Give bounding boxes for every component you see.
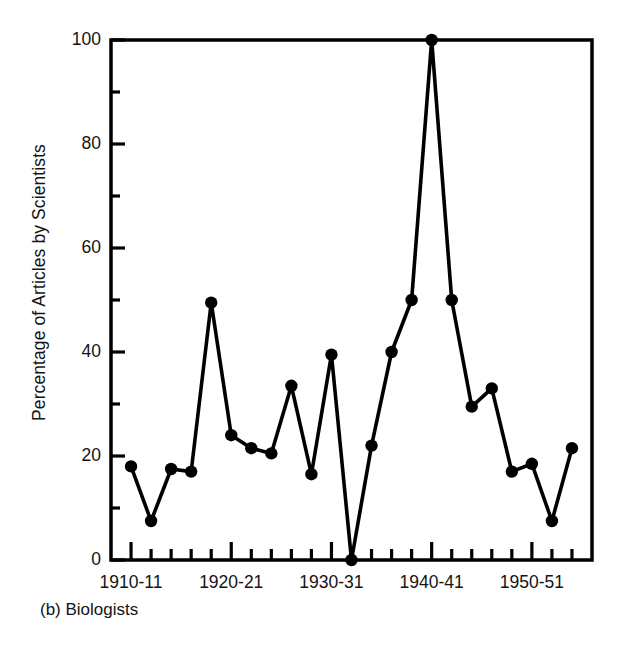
figure-caption: (b) Biologists: [40, 600, 138, 620]
data-point-marker: 1930-31: 39.5: [325, 348, 337, 360]
y-tick-label: 20: [49, 445, 101, 466]
data-point-marker: 1926-27: 33.5: [285, 380, 297, 392]
x-tick-label: 1910-11: [76, 572, 186, 593]
data-point-marker: 1952-53: 7.5: [546, 515, 558, 527]
data-point-marker: 1920-21: 24: [225, 429, 237, 441]
data-point-marker: 1922-23: 21.5: [245, 442, 257, 454]
data-point-marker: 1936-37: 40: [385, 346, 397, 358]
y-tick-label: 40: [49, 341, 101, 362]
series-markers: 1910-11: 181912-13: 7.51914-15: 17.51916…: [125, 34, 578, 566]
x-tick-label: 1920-21: [176, 572, 286, 593]
y-tick-label: 80: [49, 133, 101, 154]
x-tick-label: 1930-31: [276, 572, 386, 593]
data-point-marker: 1934-35: 22: [365, 439, 377, 451]
series-line: [131, 40, 572, 560]
data-point-marker: 1948-49: 17: [506, 465, 518, 477]
data-point-marker: 1910-11: 18: [125, 460, 137, 472]
chart-figure: Percentage of Articles by Scientists 191…: [0, 0, 623, 661]
plot-frame: [111, 40, 592, 560]
data-series-biologists: 1910-11: 181912-13: 7.51914-15: 17.51916…: [125, 34, 578, 566]
plot-border: [111, 40, 592, 560]
data-point-marker: 1912-13: 7.5: [145, 515, 157, 527]
y-tick-label: 0: [49, 549, 101, 570]
data-point-marker: 1940-41: 100: [425, 34, 437, 46]
data-point-marker: 1916-17: 17: [185, 465, 197, 477]
data-point-marker: 1928-29: 16.5: [305, 468, 317, 480]
x-tick-label: 1940-41: [377, 572, 487, 593]
data-point-marker: 1944-45: 29.5: [466, 400, 478, 412]
data-point-marker: 1954-55: 21.5: [566, 442, 578, 454]
y-tick-label: 60: [49, 237, 101, 258]
data-point-marker: 1918-19: 49.5: [205, 296, 217, 308]
data-point-marker: 1950-51: 18.5: [526, 458, 538, 470]
y-axis-ticks: [111, 40, 125, 560]
data-point-marker: 1914-15: 17.5: [165, 463, 177, 475]
data-point-marker: 1942-43: 50: [446, 294, 458, 306]
data-point-marker: 1924-25: 20.5: [265, 447, 277, 459]
y-tick-label: 100: [49, 29, 101, 50]
data-point-marker: 1946-47: 33: [486, 382, 498, 394]
data-point-marker: 1938-39: 50: [405, 294, 417, 306]
data-point-marker: 1932-33: 0: [345, 554, 357, 566]
x-tick-label: 1950-51: [477, 572, 587, 593]
